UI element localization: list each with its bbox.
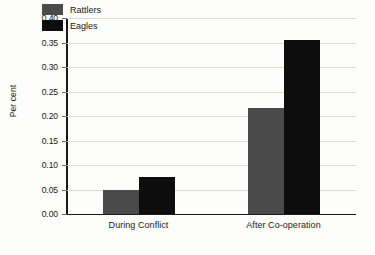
x-axis-label: After Co-operation: [246, 220, 320, 230]
y-tick-label: 0.00: [18, 209, 58, 219]
legend-item-eagles: Eagles: [42, 20, 101, 31]
legend-item-rattlers: Rattlers: [42, 4, 101, 15]
y-tick-label: 0.10: [18, 160, 58, 170]
x-axis-labels: During ConflictAfter Co-operation: [66, 220, 356, 240]
x-axis-label: During Conflict: [109, 220, 169, 230]
y-tick-label: 0.05: [18, 185, 58, 195]
y-axis-title: Per cent: [8, 66, 18, 136]
legend-swatch-eagles: [42, 20, 63, 31]
legend-label-rattlers: Rattlers: [70, 5, 101, 15]
y-tick-mark: [62, 214, 67, 215]
y-tick-label: 0.15: [18, 136, 58, 146]
bar-rattlers-after-co-operation: [248, 108, 284, 214]
y-tick-label: 0.35: [18, 38, 58, 48]
legend: Rattlers Eagles: [42, 4, 101, 36]
gridline: [66, 214, 356, 215]
y-tick-label: 0.30: [18, 62, 58, 72]
bar-rattlers-during-conflict: [103, 190, 139, 214]
y-tick-label: 0.25: [18, 87, 58, 97]
bar-series-group: [66, 18, 356, 214]
bar-eagles-during-conflict: [139, 177, 175, 214]
plot-area: 0.000.050.100.150.200.250.300.350.40: [66, 18, 356, 214]
y-tick-label: 0.20: [18, 111, 58, 121]
bar-eagles-after-co-operation: [284, 40, 320, 214]
legend-swatch-rattlers: [42, 4, 63, 15]
bar-chart: Per cent 0.000.050.100.150.200.250.300.3…: [0, 0, 375, 255]
legend-label-eagles: Eagles: [70, 21, 98, 31]
